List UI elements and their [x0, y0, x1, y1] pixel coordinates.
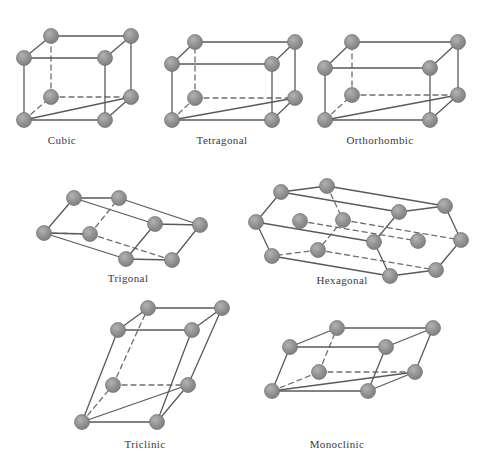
lattice-atom	[408, 365, 423, 380]
lattice-atom	[283, 340, 298, 355]
lattice-edge	[24, 97, 131, 120]
lattice-atom	[345, 35, 360, 50]
cell-label-triclinic: Triclinic	[124, 438, 165, 450]
lattice-atom	[383, 269, 398, 284]
lattice-atom	[288, 35, 303, 50]
lattice-atom	[111, 323, 126, 338]
lattice-atom	[265, 249, 280, 264]
lattice-atom	[112, 191, 127, 206]
lattice-atom	[188, 35, 203, 50]
lattice-atom	[454, 233, 469, 248]
lattice-atom	[361, 384, 376, 399]
lattice-edge	[256, 222, 374, 242]
lattice-edge	[188, 308, 222, 385]
unit-cell-triclinic	[75, 301, 230, 430]
lattice-atom	[98, 113, 113, 128]
lattice-atom	[312, 365, 327, 380]
lattice-atom	[249, 215, 264, 230]
lattice-atom	[423, 113, 438, 128]
lattice-atom	[124, 90, 139, 105]
lattice-atom	[37, 226, 52, 241]
lattice-hidden-edge	[113, 308, 148, 385]
lattice-atom	[330, 321, 345, 336]
lattice-hidden-edge	[300, 221, 418, 241]
unit-cell-tetragonal	[165, 35, 303, 128]
lattice-atom	[188, 91, 203, 106]
lattice-atom	[119, 252, 134, 267]
lattice-diagram	[0, 0, 480, 464]
lattice-atom	[165, 253, 180, 268]
lattice-atom	[106, 378, 121, 393]
lattice-atom	[429, 263, 444, 278]
lattice-atom	[293, 214, 308, 229]
lattice-atom	[75, 415, 90, 430]
lattice-atom	[423, 61, 438, 76]
cell-label-cubic: Cubic	[48, 134, 76, 146]
lattice-atom	[215, 301, 230, 316]
lattice-atom	[181, 378, 196, 393]
crystal-systems-figure: CubicTetragonalOrthorhombicTrigonalHexag…	[0, 0, 480, 464]
lattice-atom	[379, 340, 394, 355]
lattice-edge	[272, 372, 415, 391]
lattice-atom	[451, 88, 466, 103]
lattice-atom	[451, 35, 466, 50]
lattice-atom	[165, 113, 180, 128]
lattice-atom	[148, 217, 163, 232]
lattice-atom	[193, 218, 208, 233]
lattice-atom	[67, 191, 82, 206]
lattice-atom	[83, 227, 98, 242]
lattice-atom	[426, 321, 441, 336]
lattice-atom	[320, 179, 335, 194]
lattice-atom	[288, 91, 303, 106]
unit-cell-trigonal	[37, 191, 208, 268]
lattice-hidden-edge	[343, 220, 461, 240]
lattice-atom	[265, 384, 280, 399]
cell-label-orthorhombic: Orthorhombic	[346, 134, 413, 146]
lattice-atom	[311, 243, 326, 258]
lattice-atom	[336, 213, 351, 228]
lattice-edge	[325, 95, 458, 120]
lattice-atom	[367, 235, 382, 250]
lattice-atom	[165, 57, 180, 72]
lattice-atom	[274, 185, 289, 200]
lattice-atom	[98, 51, 113, 66]
unit-cell-orthorhombic	[318, 35, 466, 128]
cell-label-monoclinic: Monoclinic	[310, 438, 365, 450]
unit-cell-monoclinic	[265, 321, 441, 399]
lattice-atom	[150, 415, 165, 430]
cell-label-hexagonal: Hexagonal	[316, 274, 367, 286]
lattice-atom	[265, 113, 280, 128]
lattice-atom	[44, 29, 59, 44]
lattice-atom	[318, 61, 333, 76]
lattice-edge	[82, 330, 118, 422]
unit-cell-hexagonal	[249, 179, 469, 284]
lattice-atom	[17, 51, 32, 66]
lattice-atom	[17, 113, 32, 128]
lattice-atom	[345, 88, 360, 103]
lattice-atom	[438, 199, 453, 214]
lattice-atom	[265, 57, 280, 72]
lattice-atom	[185, 323, 200, 338]
lattice-atom	[124, 29, 139, 44]
cell-label-trigonal: Trigonal	[108, 272, 149, 284]
cell-label-tetragonal: Tetragonal	[197, 134, 248, 146]
lattice-atom	[392, 205, 407, 220]
lattice-atom	[318, 113, 333, 128]
lattice-atom	[141, 301, 156, 316]
lattice-edge	[157, 330, 192, 422]
lattice-atom	[44, 90, 59, 105]
lattice-atom	[411, 234, 426, 249]
unit-cell-cubic	[17, 29, 139, 128]
